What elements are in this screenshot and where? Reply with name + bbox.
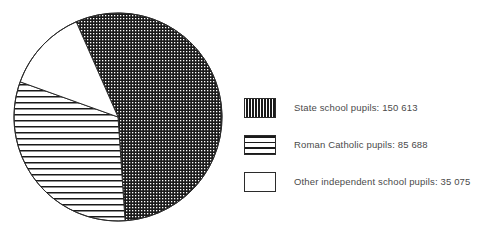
- legend-label-roman-catholic: Roman Catholic pupils: 85 688: [294, 139, 428, 151]
- legend-item-state-school[interactable]: State school pupils: 150 613: [244, 96, 418, 120]
- horizontal-lines-swatch-icon: [244, 135, 276, 155]
- pie-chart-figure: State school pupils: 150 613 Roman Catho…: [0, 0, 488, 230]
- legend-item-roman-catholic[interactable]: Roman Catholic pupils: 85 688: [244, 133, 428, 157]
- legend: State school pupils: 150 613 Roman Catho…: [244, 90, 488, 202]
- dense-dot-swatch-icon: [244, 98, 276, 118]
- legend-label-other-independent: Other independent school pupils: 35 075: [294, 176, 470, 188]
- legend-item-other-independent[interactable]: Other independent school pupils: 35 075: [244, 170, 470, 194]
- pie-chart-plot-area: [0, 0, 240, 230]
- legend-label-state-school: State school pupils: 150 613: [294, 102, 418, 114]
- empty-swatch-icon: [244, 172, 276, 192]
- pie-chart-svg: [0, 0, 240, 230]
